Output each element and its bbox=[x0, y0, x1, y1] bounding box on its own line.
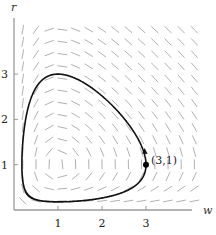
r-axis-label: r bbox=[11, 1, 17, 14]
w-tick-label: 2 bbox=[99, 217, 106, 230]
initial-point bbox=[143, 162, 149, 168]
phase-plane-diagram: 123123 w r (3,1) bbox=[0, 0, 216, 235]
w-tick-label: 3 bbox=[143, 217, 150, 230]
r-tick-label: 2 bbox=[1, 113, 8, 126]
w-tick-label: 1 bbox=[55, 217, 62, 230]
r-tick-label: 1 bbox=[1, 159, 8, 172]
slope-field bbox=[20, 25, 199, 204]
r-tick-label: 3 bbox=[1, 68, 8, 81]
w-axis-label: w bbox=[203, 204, 213, 217]
point-label: (3,1) bbox=[151, 154, 177, 167]
